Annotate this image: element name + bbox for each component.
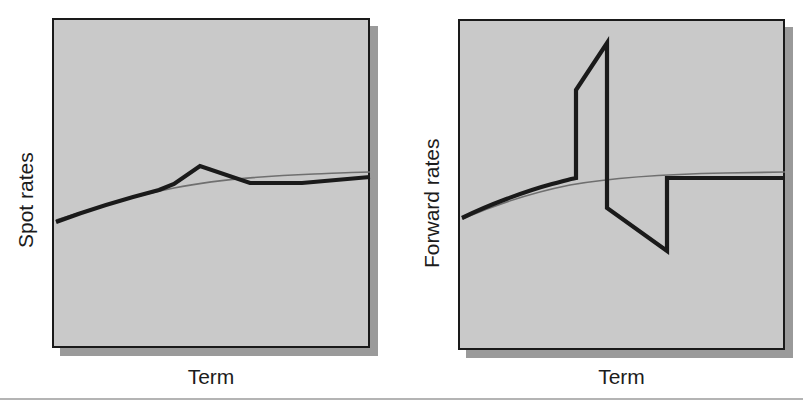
plot-area-forward — [458, 19, 785, 350]
x-axis-label-spot: Term — [52, 365, 370, 389]
figure-container: Spot rates Term Forward rates Term — [0, 0, 803, 400]
y-axis-label-forward: Forward rates — [420, 138, 444, 268]
chart-panel-forward-rates: Forward rates Term — [400, 0, 803, 400]
plot-curves-spot — [54, 20, 372, 350]
y-axis-label-spot: Spot rates — [14, 152, 38, 248]
plot-curves-forward — [460, 21, 787, 352]
plot-area-spot — [52, 18, 370, 348]
x-axis-label-forward: Term — [458, 365, 785, 389]
chart-panel-spot-rates: Spot rates Term — [0, 0, 400, 400]
forward-rates-line — [462, 43, 785, 251]
